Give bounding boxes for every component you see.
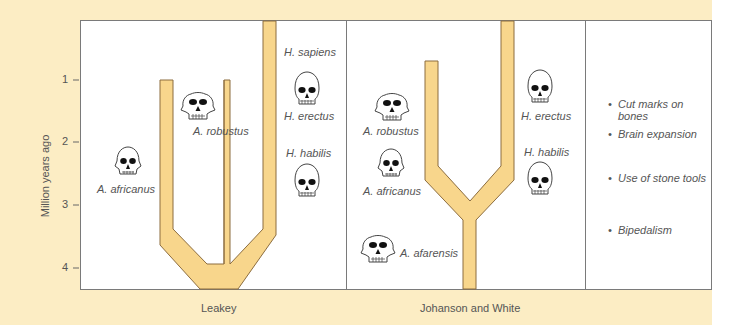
y-axis-label: Million years ago [39, 121, 51, 231]
label-a-robustus-leakey: A. robustus [193, 125, 249, 138]
panel-title-johanson-white: Johanson and White [420, 302, 520, 314]
y-tick-2: 2 [56, 135, 68, 147]
y-tick-1: 1 [56, 73, 68, 85]
y-axis-ticks [73, 80, 79, 268]
y-tick-4: 4 [56, 261, 68, 273]
label-a-africanus-leakey: A. africanus [97, 183, 155, 196]
label-a-africanus-jw: A. africanus [363, 185, 421, 198]
bullet-icon: • [608, 98, 612, 110]
skull-h-erectus-jw [528, 70, 552, 102]
label-h-habilis-jw: H. habilis [524, 146, 569, 159]
skull-h-erectus-leakey [295, 72, 319, 104]
bullet-icon: • [608, 128, 612, 140]
label-h-erectus-jw: H. erectus [521, 110, 571, 123]
panel-title-leakey: Leakey [201, 302, 236, 314]
skull-h-habilis-jw [528, 162, 552, 194]
label-h-habilis-leakey: H. habilis [286, 147, 331, 160]
label-a-robustus-jw: A. robustus [363, 125, 419, 138]
label-h-erectus-leakey: H. erectus [284, 110, 334, 123]
label-h-sapiens-leakey: H. sapiens [284, 46, 336, 59]
y-tick-3: 3 [56, 198, 68, 210]
bullet-icon: • [608, 224, 612, 236]
label-a-afarensis-jw: A. afarensis [400, 247, 458, 260]
bullet-icon: • [608, 172, 612, 184]
skull-h-habilis-leakey [295, 164, 319, 196]
phylogeny-diagram [0, 0, 738, 325]
